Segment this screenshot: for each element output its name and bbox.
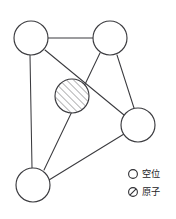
edge-top-left-to-bottom (30, 55, 32, 168)
diagram-canvas: 空位 原子 (0, 0, 176, 219)
node-atom-center[interactable] (54, 78, 90, 114)
edge-top-right-to-right (117, 55, 134, 108)
legend-label-atom: 原子 (142, 186, 160, 197)
legend-item-atom: 原子 (129, 186, 160, 197)
legend: 空位 原子 (129, 168, 160, 197)
node-vacancy-top-left[interactable] (14, 21, 48, 55)
node-vacancy-top-right[interactable] (93, 21, 127, 55)
legend-label-vacancy: 空位 (142, 168, 160, 179)
legend-item-vacancy: 空位 (129, 168, 160, 179)
node-vacancy-right[interactable] (121, 108, 155, 142)
lattice-defect-figure: 空位 原子 (0, 0, 176, 219)
node-vacancy-bottom[interactable] (16, 168, 50, 202)
edge-bottom-to-right (49, 134, 124, 180)
atom-hatch-fill (54, 78, 90, 114)
open-circle-icon (129, 170, 138, 179)
